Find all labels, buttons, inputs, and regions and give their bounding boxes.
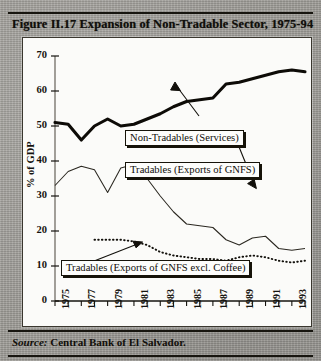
x-tick-label: 1993 bbox=[297, 289, 308, 309]
leader-arrow-non-tradables bbox=[171, 82, 181, 91]
x-tick-label: 1985 bbox=[192, 289, 203, 309]
y-tick-label: 10 bbox=[25, 259, 47, 270]
y-tick-label: 60 bbox=[25, 84, 47, 95]
x-tick-label: 1977 bbox=[86, 289, 97, 309]
figure-frame: Figure II.17 Expansion of Non-Tradable S… bbox=[0, 0, 321, 361]
leader-arrow-excl-coffee bbox=[133, 241, 143, 248]
middle-rule bbox=[8, 330, 313, 332]
x-tick-label: 1983 bbox=[165, 289, 176, 309]
x-tick-label: 1979 bbox=[113, 289, 124, 309]
chart-plot-area bbox=[23, 38, 311, 326]
plot-panel: 706050403020100 197519771979198119831985… bbox=[22, 37, 312, 327]
source-label: Source: bbox=[12, 336, 47, 348]
source-line: Source: Central Bank of El Salvador. bbox=[12, 336, 186, 348]
y-tick-label: 50 bbox=[25, 119, 47, 130]
y-tick-label: 30 bbox=[25, 189, 47, 200]
y-tick-label: 20 bbox=[25, 224, 47, 235]
callout-non-tradables: Non-Tradables (Services) bbox=[125, 130, 244, 146]
source-text: Central Bank of El Salvador. bbox=[50, 336, 186, 348]
x-tick-label: 1975 bbox=[60, 289, 71, 309]
y-tick-label: 70 bbox=[25, 49, 47, 60]
x-tick-label: 1987 bbox=[218, 289, 229, 309]
figure-title: Figure II.17 Expansion of Non-Tradable S… bbox=[12, 17, 310, 33]
callout-tradables: Tradables (Exports of GNFS) bbox=[125, 162, 260, 178]
leader-arrow-tradables bbox=[248, 179, 257, 188]
x-tick-label: 1989 bbox=[244, 289, 255, 309]
y-tick-label: 0 bbox=[25, 294, 47, 305]
x-tick-label: 1991 bbox=[271, 289, 282, 309]
bottom-rule bbox=[8, 355, 313, 357]
x-tick-label: 1981 bbox=[139, 289, 150, 309]
callout-tradables-excl-coffee: Tradables (Exports of GNFS excl. Coffee) bbox=[61, 260, 250, 276]
y-axis-title: % of GDP bbox=[25, 141, 36, 188]
top-rule bbox=[8, 12, 313, 14]
